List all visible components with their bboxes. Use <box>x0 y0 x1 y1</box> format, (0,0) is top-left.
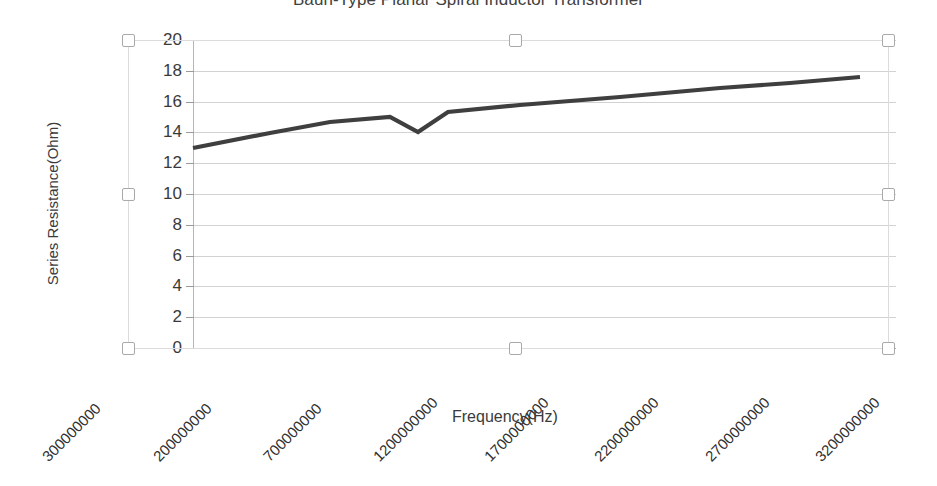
x-axis-tick-label: 300000000 <box>39 400 103 464</box>
x-axis-title: Frequency(Hz) <box>452 408 558 426</box>
selection-border-top <box>128 40 888 41</box>
x-axis-tick-label: 2700000000 <box>702 394 772 464</box>
resize-handle-top-right[interactable] <box>882 34 895 47</box>
selection-border-bottom <box>128 348 888 349</box>
resize-handle-middle-left[interactable] <box>122 188 135 201</box>
resize-handle-top-center[interactable] <box>509 34 522 47</box>
chart-canvas: Baun-Type Planar Spiral Inductor Transfo… <box>0 0 937 486</box>
x-axis-tick-label: 200000000 <box>150 400 214 464</box>
resize-handle-top-left[interactable] <box>122 34 135 47</box>
x-axis-tick-label: 1200000000 <box>370 394 440 464</box>
x-axis-tick-label: 3200000000 <box>812 394 882 464</box>
resize-handle-bottom-left[interactable] <box>122 342 135 355</box>
x-axis-tick-label: 1700000000 <box>481 394 551 464</box>
resize-handle-bottom-right[interactable] <box>882 342 895 355</box>
x-axis-tick-label: 2200000000 <box>591 394 661 464</box>
resize-handle-bottom-center[interactable] <box>509 342 522 355</box>
x-axis-tick-label: 700000000 <box>260 400 324 464</box>
resize-handle-middle-right[interactable] <box>882 188 895 201</box>
